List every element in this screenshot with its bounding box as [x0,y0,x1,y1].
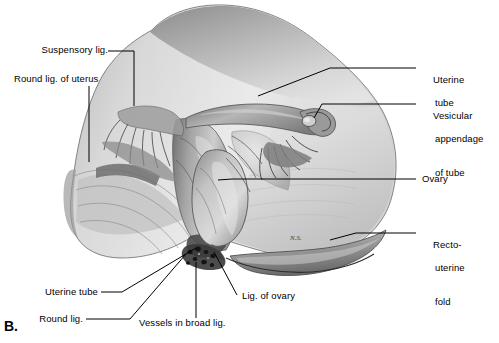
panel-label: B. [4,318,18,334]
label-ovary: Ovary [422,173,448,185]
label-vessels-in-broad-lig: Vessels in broad lig. [139,317,226,329]
label-line-2: uterine [422,262,465,274]
label-uterine-tube-left: Uterine tube [0,286,98,298]
artist-signature: N.S. [289,234,302,242]
label-lig-of-ovary: Lig. of ovary [242,290,295,302]
label-line-1: Recto- [433,239,462,250]
label-line-1: Uterine [433,74,464,85]
vesicular-appendage [302,116,316,127]
ovary [192,150,248,247]
label-vesicular-appendage: Vesicular appendage of tube [422,98,483,202]
label-round-lig-of-uterus: Round lig. of uterus [0,73,152,85]
label-suspensory-lig: Suspensory lig. [0,44,108,56]
label-line-1: Vesicular [433,110,472,121]
anatomical-figure: N.S. Suspensory lig. Round lig. [0,0,499,343]
label-recto-uterine-fold: Recto- uterine fold [422,227,465,331]
leader-round-lig [86,254,186,319]
label-line-2: appendage [422,133,483,145]
label-line-3: fold [422,296,465,308]
